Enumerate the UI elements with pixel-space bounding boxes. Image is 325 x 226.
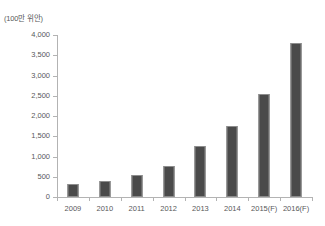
bar-slot bbox=[248, 35, 280, 197]
bar-slot bbox=[280, 35, 312, 197]
y-tick-label: 0 bbox=[46, 193, 50, 201]
bar[interactable] bbox=[195, 146, 206, 197]
x-tick-mark bbox=[216, 197, 217, 201]
y-tick-label: 3,000 bbox=[31, 72, 50, 80]
y-tick-label: 4,000 bbox=[31, 31, 50, 39]
x-tick-mark bbox=[89, 197, 90, 201]
bar[interactable] bbox=[67, 184, 78, 197]
x-tick-mark bbox=[312, 197, 313, 201]
y-axis-unit-label: (100만 위안) bbox=[4, 14, 43, 24]
x-axis-label: 2012 bbox=[160, 204, 177, 213]
x-tick-mark bbox=[185, 197, 186, 201]
bar-slot bbox=[185, 35, 217, 197]
x-tick-mark bbox=[121, 197, 122, 201]
plot-area: 05001,0001,5002,0002,5003,0003,5004,000 … bbox=[57, 35, 312, 197]
y-tick-label: 1,000 bbox=[31, 153, 50, 161]
x-axis-label: 2009 bbox=[65, 204, 82, 213]
x-tick-mark bbox=[248, 197, 249, 201]
x-axis-label: 2016(F) bbox=[283, 204, 309, 213]
x-axis-label: 2011 bbox=[129, 204, 145, 213]
y-tick-label: 2,500 bbox=[31, 92, 50, 100]
bar-slot bbox=[121, 35, 153, 197]
bar-series bbox=[57, 35, 312, 197]
x-tick-mark bbox=[153, 197, 154, 201]
x-axis-label: 2010 bbox=[96, 204, 113, 213]
bar[interactable] bbox=[99, 181, 110, 197]
bar[interactable] bbox=[227, 126, 238, 197]
bar[interactable] bbox=[291, 43, 302, 197]
x-axis-label: 2013 bbox=[192, 204, 209, 213]
bar-slot bbox=[89, 35, 121, 197]
bar-slot bbox=[57, 35, 89, 197]
x-axis-label: 2014 bbox=[224, 204, 241, 213]
bar-chart: (100만 위안) 05001,0001,5002,0002,5003,0003… bbox=[0, 0, 325, 226]
bar[interactable] bbox=[259, 94, 270, 197]
bar[interactable] bbox=[163, 166, 174, 197]
bar-slot bbox=[153, 35, 185, 197]
bar[interactable] bbox=[131, 175, 142, 197]
x-tick-mark bbox=[280, 197, 281, 201]
x-axis-label: 2015(F) bbox=[251, 204, 277, 213]
y-tick-label: 500 bbox=[37, 173, 50, 181]
y-tick-label: 2,000 bbox=[31, 112, 50, 120]
y-tick-label: 3,500 bbox=[31, 51, 50, 59]
bar-slot bbox=[216, 35, 248, 197]
x-tick-mark bbox=[57, 197, 58, 201]
y-tick-label: 1,500 bbox=[31, 132, 50, 140]
